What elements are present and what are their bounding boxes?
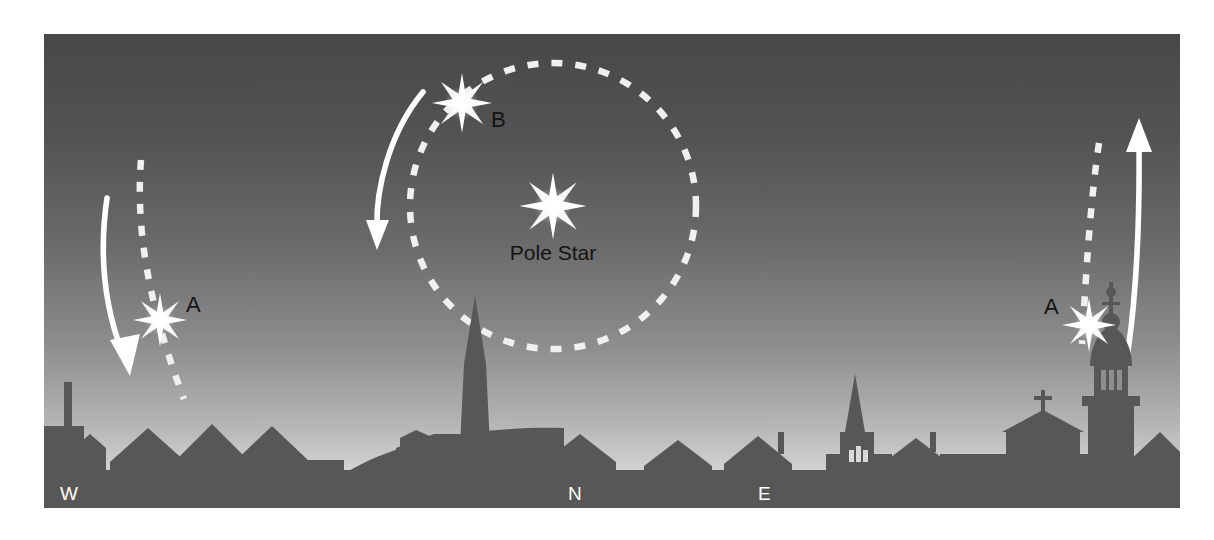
cupola-col-gap-1 xyxy=(1101,370,1106,390)
church-body-centre xyxy=(444,442,554,474)
cupola-col-gap-2 xyxy=(1109,370,1114,390)
star-b-label: B xyxy=(491,107,506,132)
pole-star-label: Pole Star xyxy=(510,241,596,264)
ground-band xyxy=(44,470,1180,508)
low-building-a xyxy=(302,460,344,474)
house-7-chimney xyxy=(778,432,784,454)
compass-label-north: N xyxy=(568,483,582,504)
cupola-finial-ball xyxy=(1106,287,1116,297)
chapel-body xyxy=(1006,432,1080,474)
compass-label-west: W xyxy=(60,483,78,504)
cupola-col-gap-3 xyxy=(1117,370,1122,390)
cupola-cornice xyxy=(1082,396,1140,406)
compass-label-east: E xyxy=(758,483,771,504)
chapel-cross-bar xyxy=(1034,396,1052,400)
diagram-canvas: Pole Star B A A W N E xyxy=(44,34,1180,508)
house-8-chimney xyxy=(930,432,936,452)
gothic-window-right xyxy=(863,450,868,462)
star-a-east-label: A xyxy=(1044,294,1059,319)
page-root: Pole Star B A A W N E xyxy=(0,0,1214,540)
cupola-finial-bar xyxy=(1102,302,1120,305)
outbuilding-centre xyxy=(400,430,434,474)
chapel-cross-post xyxy=(1041,390,1045,412)
house-1 xyxy=(104,458,106,474)
gothic-window-left xyxy=(849,450,854,462)
row-houses-a xyxy=(940,454,1016,474)
night-sky-diagram: Pole Star B A A W N E xyxy=(44,34,1180,508)
gothic-window-mid xyxy=(856,446,861,462)
star-a-west-label: A xyxy=(186,292,201,317)
